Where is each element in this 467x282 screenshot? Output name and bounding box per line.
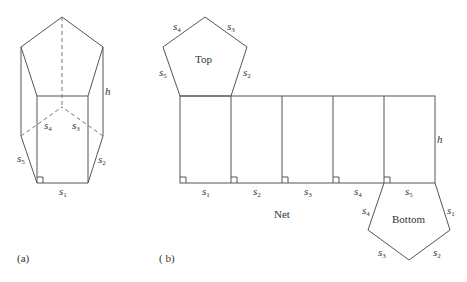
- label-s2-net: s2: [253, 186, 261, 199]
- label-s1-net: s1: [202, 186, 210, 199]
- label-s4-top: s4: [173, 21, 181, 34]
- prism-3d: [21, 17, 103, 183]
- label-bottom: Bottom: [392, 214, 425, 225]
- label-s4-net: s4: [354, 186, 362, 199]
- label-s2-top: s2: [243, 67, 251, 80]
- label-s2-bottom: s2: [433, 247, 441, 260]
- caption-a: (a): [17, 253, 29, 264]
- label-top: Top: [195, 54, 212, 65]
- label-s4-bottom: s4: [362, 205, 370, 218]
- label-h-net: h: [437, 134, 443, 145]
- label-s2-a: s2: [98, 154, 106, 167]
- caption-b: ( b): [159, 253, 175, 264]
- pentagonal-prism-figure: h s4 s3 s5 s2 s1 (a) s4 s3 Top s5 s2 s1 …: [0, 0, 467, 282]
- label-s3-net: s3: [304, 186, 312, 199]
- label-s3-bottom: s3: [378, 247, 386, 260]
- label-s5-top: s5: [159, 67, 167, 80]
- label-s3-top: s3: [227, 21, 235, 34]
- label-h-a: h: [105, 86, 111, 97]
- label-net: Net: [274, 209, 290, 220]
- label-s1-a: s1: [59, 186, 67, 199]
- label-s4-a: s4: [44, 120, 52, 133]
- diagram-lines: [0, 0, 467, 282]
- label-s1-bottom: s1: [447, 205, 455, 218]
- label-s5-a: s5: [17, 153, 25, 166]
- label-s3-a: s3: [72, 120, 80, 133]
- label-s5-net: s5: [405, 186, 413, 199]
